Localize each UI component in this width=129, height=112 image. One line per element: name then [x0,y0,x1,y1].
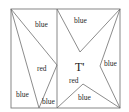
right-center-region-label: red [69,76,79,85]
right-side-region-label: blue [104,59,118,68]
left-bottom-region-label: blue [16,90,30,99]
right-bottom-region-label: blue [78,93,92,102]
right-top-region-label: blue [74,16,88,25]
t-prime-label: T' [75,60,85,74]
left-top-region-label: blue [35,20,49,29]
left-bottom-small-region-label: blue [42,97,56,106]
triangulation-diagram: blue red blue blue blue blue blue red T' [0,0,129,112]
left-middle-region-label: red [37,64,47,73]
